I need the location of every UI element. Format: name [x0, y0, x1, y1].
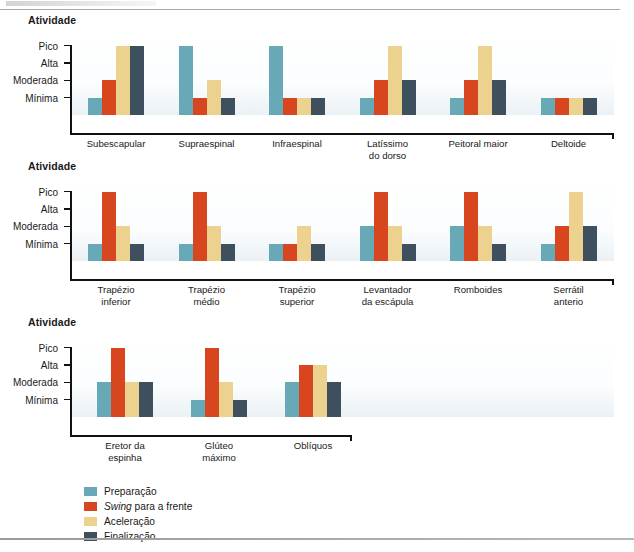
chart-2-ytick-label-0: Pico: [0, 186, 58, 197]
chart-2-ytick-label-1: Alta: [0, 204, 58, 215]
bar-preparacao: [541, 244, 555, 261]
chart-2-ytick-label-2: Moderada: [0, 221, 58, 232]
chart-1-ytick-label-1: Alta: [0, 58, 58, 69]
legend-item-aceleracao: Aceleração: [84, 514, 192, 528]
legend-label-swing: Swing para a frente: [104, 501, 192, 512]
chart-1-ytick-mark-1: [64, 62, 71, 63]
bar-preparacao: [269, 46, 283, 115]
bar-aceleracao: [569, 98, 583, 115]
bar-finalizacao: [311, 244, 325, 261]
bar-preparacao: [269, 244, 283, 261]
chart-2-ytick-mark-3: [64, 243, 71, 244]
legend-swatch-swing: [84, 502, 97, 511]
bar-finalizacao: [583, 98, 597, 115]
bar-aceleracao: [313, 365, 327, 417]
chart-1-axis-title: Atividade: [28, 14, 76, 26]
bar-aceleracao: [207, 226, 221, 261]
chart-3-ytick-label-1: Alta: [0, 360, 58, 371]
legend-swatch-preparacao: [84, 487, 97, 496]
bar-swing: [555, 98, 569, 115]
chart-1-plot-background: [72, 33, 614, 115]
legend-item-finalizacao: Finalização: [84, 529, 192, 543]
bar-swing: [374, 192, 388, 261]
chart-2-ytick-mark-1: [64, 208, 71, 209]
chart-3-ytick-mark-0: [64, 347, 71, 348]
bar-preparacao: [88, 98, 102, 115]
bar-finalizacao: [311, 98, 325, 115]
chart-2: AtividadePicoAltaModeradaMínimaTrapézio …: [0, 160, 634, 306]
legend-item-preparacao: Preparação: [84, 484, 192, 498]
legend-item-swing: Swing para a frente: [84, 499, 192, 513]
bar-preparacao: [360, 226, 374, 261]
chart-3-plot-background: [72, 335, 614, 417]
bar-swing: [283, 244, 297, 261]
legend-label-aceleracao: Aceleração: [104, 516, 155, 527]
top-horizontal-rule: [0, 9, 620, 10]
legend-label-preparacao: Preparação: [104, 486, 157, 497]
bar-swing: [464, 192, 478, 261]
chart-1-ytick-mark-3: [64, 97, 71, 98]
page-edge-smudge: [6, 1, 156, 6]
chart-3-ytick-mark-1: [64, 364, 71, 365]
bar-swing: [299, 365, 313, 417]
bar-aceleracao: [116, 46, 130, 115]
chart-3-ytick-label-0: Pico: [0, 342, 58, 353]
bar-swing: [193, 98, 207, 115]
bar-aceleracao: [207, 80, 221, 115]
bar-finalizacao: [402, 80, 416, 115]
bar-finalizacao: [327, 382, 341, 417]
bar-swing: [205, 348, 219, 417]
chart-3-ytick-label-3: Mínima: [0, 394, 58, 405]
bar-aceleracao: [478, 226, 492, 261]
bar-swing: [102, 192, 116, 261]
bar-swing: [283, 98, 297, 115]
chart-legend: Preparação Swing para a frente Aceleraçã…: [84, 484, 192, 544]
chart-2-y-axis: [70, 191, 72, 280]
bar-preparacao: [97, 382, 111, 417]
legend-label-swing-rest: para a frente: [132, 501, 193, 512]
legend-label-swing-italic: Swing: [104, 501, 132, 512]
bar-preparacao: [191, 400, 205, 417]
chart-1: AtividadePicoAltaModeradaMínimaSubescapu…: [0, 14, 634, 160]
bar-swing: [374, 80, 388, 115]
chart-2-ytick-mark-2: [64, 226, 71, 227]
bar-aceleracao: [388, 46, 402, 115]
chart-3-x-axis: [70, 435, 352, 437]
bar-preparacao: [450, 226, 464, 261]
bar-preparacao: [285, 382, 299, 417]
bar-finalizacao: [221, 98, 235, 115]
chart-1-x-axis: [70, 133, 614, 135]
chart-1-ytick-label-0: Pico: [0, 40, 58, 51]
bottom-horizontal-rule: [0, 538, 634, 540]
chart-1-ytick-label-2: Moderada: [0, 75, 58, 86]
category-label: Oblíquos: [258, 440, 368, 452]
category-label: Deltoide: [514, 138, 624, 150]
bar-swing: [111, 348, 125, 417]
figure-page: AtividadePicoAltaModeradaMínimaSubescapu…: [0, 0, 634, 552]
bar-aceleracao: [125, 382, 139, 417]
chart-3-y-axis: [70, 347, 72, 436]
bar-finalizacao: [130, 46, 144, 115]
chart-3-ytick-mark-3: [64, 399, 71, 400]
bar-preparacao: [88, 244, 102, 261]
bar-aceleracao: [569, 192, 583, 261]
bar-aceleracao: [297, 98, 311, 115]
chart-3: AtividadePicoAltaModeradaMínimaEretor da…: [0, 316, 634, 462]
chart-2-ytick-label-3: Mínima: [0, 238, 58, 249]
bar-finalizacao: [583, 226, 597, 261]
chart-2-plot-background: [72, 179, 614, 261]
category-label: Serrátil anterio: [514, 284, 624, 307]
chart-3-ytick-mark-2: [64, 382, 71, 383]
bar-aceleracao: [116, 226, 130, 261]
bar-aceleracao: [388, 226, 402, 261]
bar-finalizacao: [130, 244, 144, 261]
chart-1-ytick-label-3: Mínima: [0, 92, 58, 103]
chart-1-ytick-mark-2: [64, 80, 71, 81]
chart-2-x-axis: [70, 279, 614, 281]
bar-finalizacao: [402, 244, 416, 261]
bar-preparacao: [450, 98, 464, 115]
chart-2-axis-title: Atividade: [28, 160, 76, 172]
bar-swing: [555, 226, 569, 261]
bar-finalizacao: [492, 244, 506, 261]
chart-2-ytick-mark-0: [64, 191, 71, 192]
